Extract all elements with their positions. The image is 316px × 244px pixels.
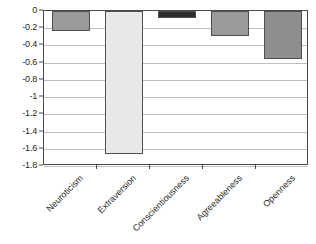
bar-chart: 0-0.2-0.4-0.6-0.8-1-1.2-1.4-1.6-1.8 Neur… [0, 0, 316, 244]
x-axis-label-text: Openness [260, 173, 296, 209]
y-tick-label: -0.8 [22, 74, 37, 83]
y-axis: 0-0.2-0.4-0.6-0.8-1-1.2-1.4-1.6-1.8 [0, 0, 43, 175]
bar [158, 11, 196, 18]
x-axis-label-text: Agreeableness [194, 173, 244, 223]
x-axis: NeuroticismExtraversionConscientiousness… [0, 165, 316, 244]
y-tick-label: -1 [29, 92, 37, 101]
bar [52, 11, 90, 31]
y-tick-label: -1.2 [22, 109, 37, 118]
bar [105, 11, 143, 154]
bar [264, 11, 302, 59]
y-tick-label: 0 [32, 6, 37, 15]
x-axis-label-text: Neuroticism [44, 173, 85, 214]
x-axis-label-text: Extraversion [95, 173, 137, 215]
y-tick-label: -0.4 [22, 40, 37, 49]
gridline [44, 97, 307, 98]
bar [211, 11, 249, 36]
x-axis-label-text: Conscientiousness [130, 173, 190, 233]
gridline [44, 80, 307, 81]
y-tick-label: -1.6 [22, 143, 37, 152]
gridline [44, 114, 307, 115]
y-tick-label: -1.4 [22, 126, 37, 135]
y-tick-label: -0.2 [22, 23, 37, 32]
gridline [44, 132, 307, 133]
gridline [44, 63, 307, 64]
y-tick-label: -0.6 [22, 57, 37, 66]
